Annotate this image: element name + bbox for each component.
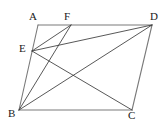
vertex-label-D: D: [150, 11, 158, 22]
segment-EC: [32, 51, 132, 110]
vertex-label-A: A: [29, 11, 37, 22]
figure-canvas: [0, 0, 167, 126]
vertex-label-F: F: [64, 11, 70, 22]
geometry-figure: AFDEBC: [0, 0, 167, 126]
segment-BD: [19, 25, 152, 110]
segment-ED: [32, 25, 152, 51]
segment-BF: [19, 25, 71, 110]
segment-AB: [19, 25, 38, 110]
vertex-label-E: E: [19, 43, 26, 54]
vertex-label-C: C: [128, 110, 135, 121]
vertex-label-B: B: [8, 108, 15, 119]
segment-DC: [132, 25, 152, 110]
inner-segments: [19, 25, 152, 110]
